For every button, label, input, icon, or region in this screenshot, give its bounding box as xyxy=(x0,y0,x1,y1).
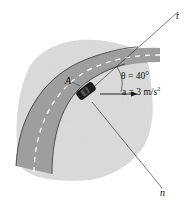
acceleration-exponent: 2 xyxy=(157,86,160,92)
road-diagram xyxy=(0,0,187,206)
tangent-axis-label: t xyxy=(176,11,179,21)
angle-label: θ = 40° xyxy=(121,72,149,82)
point-a-label: A xyxy=(65,76,71,86)
acceleration-label: a = 3 m/s2 xyxy=(122,86,160,98)
acceleration-text: a = 3 m/s xyxy=(122,87,157,97)
normal-axis-label: n xyxy=(160,188,165,198)
